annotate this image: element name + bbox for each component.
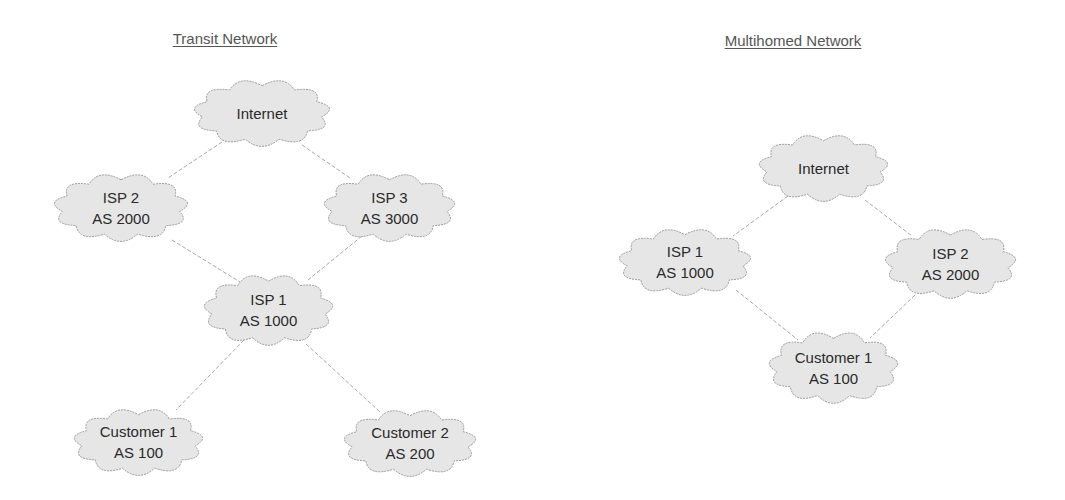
multihomed-customer1-cloud: Customer 1AS 100 xyxy=(767,330,900,405)
node-label: Customer 1 xyxy=(100,421,178,442)
multihomed-network-title: Multihomed Network xyxy=(725,32,862,49)
transit-isp3-cloud: ISP 3AS 3000 xyxy=(322,172,457,243)
transit-isp2-cloud: ISP 2AS 2000 xyxy=(52,172,190,243)
transit-internet-cloud: Internet xyxy=(192,78,332,148)
node-label: ISP 1 xyxy=(250,289,286,310)
node-as-label: AS 1000 xyxy=(240,310,298,331)
node-label: ISP 3 xyxy=(371,187,407,208)
transit-customer1-cloud: Customer 1AS 100 xyxy=(72,407,205,477)
node-as-label: AS 100 xyxy=(114,442,163,463)
node-as-label: AS 200 xyxy=(385,443,434,464)
transit-customer2-cloud: Customer 2AS 200 xyxy=(342,408,478,478)
multihomed-isp2-cloud: ISP 2AS 2000 xyxy=(883,227,1018,300)
multihomed-internet-cloud: Internet xyxy=(757,133,890,203)
node-as-label: AS 3000 xyxy=(361,208,419,229)
node-as-label: AS 2000 xyxy=(92,208,150,229)
transit-network-title: Transit Network xyxy=(173,30,277,47)
node-label: ISP 2 xyxy=(932,243,968,264)
transit-isp1-cloud: ISP 1AS 1000 xyxy=(202,273,335,347)
node-label: ISP 2 xyxy=(103,187,139,208)
node-label: Internet xyxy=(798,158,849,179)
diagram-canvas: Transit Network Multihomed Network Inter… xyxy=(0,0,1065,500)
node-label: Customer 1 xyxy=(795,347,873,368)
node-as-label: AS 2000 xyxy=(922,264,980,285)
node-label: Internet xyxy=(237,103,288,124)
multihomed-isp1-cloud: ISP 1AS 1000 xyxy=(617,227,753,297)
node-label: ISP 1 xyxy=(667,241,703,262)
node-as-label: AS 1000 xyxy=(656,262,714,283)
node-as-label: AS 100 xyxy=(809,368,858,389)
node-label: Customer 2 xyxy=(371,422,449,443)
